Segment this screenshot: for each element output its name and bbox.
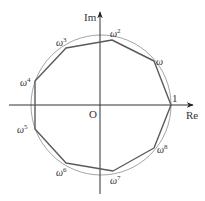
label-omega-4: ω4 [20, 76, 31, 88]
label-omega-3: ω3 [56, 36, 67, 48]
label-omega-5: ω5 [17, 123, 28, 135]
roots-of-unity-diagram: Re Im O 1 ω ω2 ω3 ω4 ω5 ω6 ω7 ω8 [0, 0, 205, 201]
real-axis-label: Re [186, 109, 198, 121]
label-omega: ω [156, 56, 163, 67]
label-1: 1 [172, 92, 178, 104]
origin-label: O [89, 108, 97, 120]
label-omega-7: ω7 [110, 174, 121, 186]
label-omega-6: ω6 [56, 166, 67, 178]
imaginary-axis-label: Im [84, 11, 97, 23]
label-omega-8: ω8 [157, 143, 168, 155]
